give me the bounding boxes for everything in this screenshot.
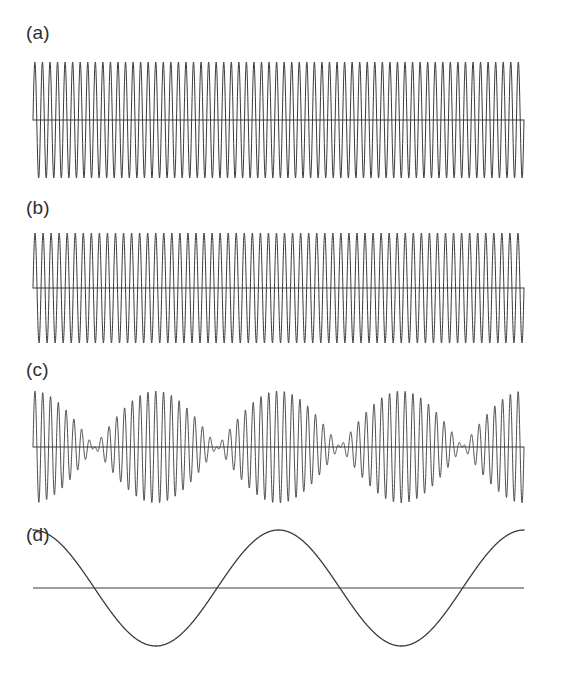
panel-d-waveform bbox=[0, 510, 582, 693]
panel-c: (c) bbox=[0, 355, 582, 510]
panel-c-waveform bbox=[0, 355, 582, 510]
panel-b: (b) bbox=[0, 185, 582, 355]
panel-a-waveform bbox=[0, 0, 582, 185]
panel-b-waveform bbox=[0, 185, 582, 355]
panel-a: (a) bbox=[0, 0, 582, 185]
panel-d: (d) bbox=[0, 510, 582, 693]
wave-trace-c bbox=[33, 391, 524, 503]
beats-figure: (a) (b) (c) (d) bbox=[0, 0, 582, 693]
